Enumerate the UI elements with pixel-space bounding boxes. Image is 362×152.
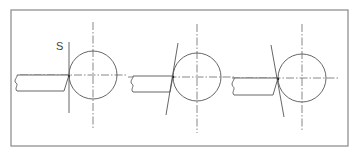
panel-3: [232, 24, 340, 132]
cutting-tool: [15, 75, 69, 91]
cutting-tool: [131, 76, 173, 92]
panel-1: [15, 22, 128, 130]
panel-2: [128, 24, 235, 133]
plane-label-s: S: [56, 40, 63, 52]
technical-diagram: S: [0, 0, 362, 152]
cutting-tool: [232, 78, 278, 95]
